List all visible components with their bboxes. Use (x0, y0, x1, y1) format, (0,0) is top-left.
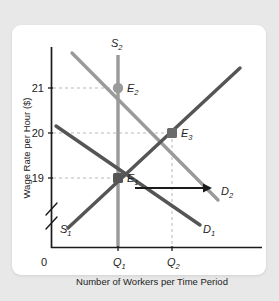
marker-e2 (113, 83, 123, 93)
curve-label-d1: D1 (203, 223, 215, 238)
curve-label-d2-sub: 2 (228, 191, 234, 200)
curve-label-d2-base: D (221, 185, 229, 197)
guidelines (53, 88, 172, 246)
x-tick-label-q1: Q1 (113, 256, 126, 271)
point-label-e3: E3 (181, 127, 193, 142)
y-axis-title: Wage Rate per Hour ($) (21, 97, 32, 198)
y-tick-label-19: 19 (32, 172, 44, 184)
curve-label-d2: D2 (221, 185, 234, 200)
marker-e3 (167, 128, 177, 138)
x-axis-title: Number of Workers per Time Period (76, 276, 228, 287)
x-tick-label-q2-sub: 2 (175, 262, 181, 271)
curve-d2 (72, 53, 218, 200)
y-tick-label-20: 20 (32, 127, 44, 139)
x-tick-label-q1-sub: 1 (122, 262, 126, 271)
curve-label-s2: S2 (111, 37, 123, 52)
point-label-e1: E1 (127, 172, 139, 187)
point-label-e2-sub: 2 (133, 88, 139, 97)
y-tick-label-21: 21 (32, 82, 44, 94)
curve-label-d1-sub: 1 (211, 229, 215, 238)
curve-s1 (68, 68, 240, 228)
marker-e1 (113, 173, 123, 183)
wage-supply-demand-chart: 21 20 19 0 Q1 Q2 S2 S1 D1 D2 E1 E2 E3 Wa… (0, 0, 279, 301)
curve-label-s1-sub: 1 (67, 229, 71, 238)
point-label-e2: E2 (127, 82, 139, 97)
curve-label-s2-sub: 2 (117, 43, 123, 52)
curve-label-d1-base: D (203, 223, 211, 235)
demand-shift-arrow (135, 184, 212, 193)
origin-label: 0 (41, 256, 47, 268)
point-label-e3-sub: 3 (188, 133, 193, 142)
point-label-e1-sub: 1 (134, 178, 138, 187)
x-tick-label-q2: Q2 (167, 256, 181, 271)
